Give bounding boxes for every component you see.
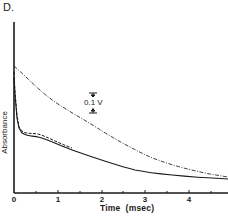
dash-dot-trace [14, 66, 228, 177]
y-axis-label: Absorbance [0, 103, 9, 163]
solid-trace [14, 78, 228, 179]
x-tick-label-1: 1 [53, 195, 63, 204]
x-tick-label-0: 0 [9, 195, 19, 204]
dashed-trace [14, 72, 72, 148]
x-tick-label-4: 4 [184, 195, 194, 204]
x-axis-label: Time (msec) [100, 203, 154, 213]
scale-bar-label: 0.1 V [84, 98, 103, 107]
chart-canvas [0, 0, 228, 220]
